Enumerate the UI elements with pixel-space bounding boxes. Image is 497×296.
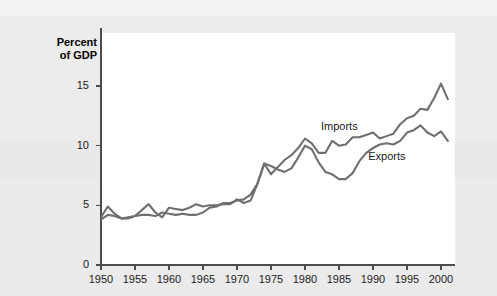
y-axis-title: Percent of GDP bbox=[39, 36, 97, 62]
y-tick-label: 0 bbox=[59, 258, 89, 270]
series-label-exports: Exports bbox=[368, 150, 405, 162]
y-axis-title-line-2: of GDP bbox=[60, 49, 97, 61]
x-tick-label: 2000 bbox=[421, 273, 461, 285]
y-axis-title-line-1: Percent bbox=[57, 36, 97, 48]
series-label-imports: Imports bbox=[321, 120, 358, 132]
y-tick-label: 10 bbox=[59, 139, 89, 151]
y-tick-label: 15 bbox=[59, 79, 89, 91]
y-tick-label: 5 bbox=[59, 198, 89, 210]
chart-figure: Percent of GDP 051015 195019551960196519… bbox=[0, 0, 497, 296]
